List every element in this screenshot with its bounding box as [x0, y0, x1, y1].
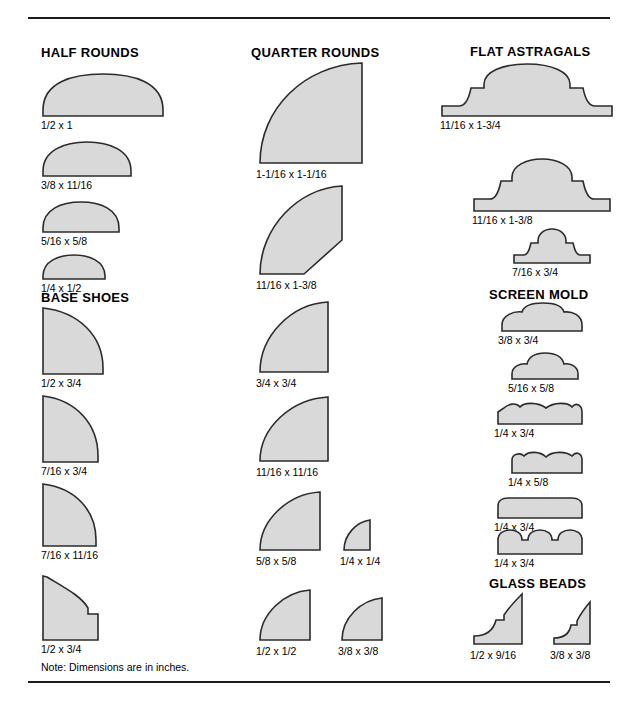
profile-quarter-round-8: 3/8 x 3/8 — [338, 596, 390, 658]
profile-quarter-round-7: 1/2 x 1/2 — [256, 588, 318, 658]
profile-base-shoe-3: 7/16 x 11/16 — [41, 482, 101, 562]
profile-label-screen-mold-4: 1/4 x 5/8 — [508, 476, 588, 489]
profile-screen-mold-4: 1/4 x 5/8 — [508, 449, 588, 489]
profile-label-base-shoe-2: 7/16 x 3/4 — [41, 465, 103, 478]
profile-shape-half-round-1 — [41, 72, 165, 118]
section-title-flat-astragals: FLAT ASTRAGALS — [470, 44, 590, 59]
profile-glass-bead-1: 1/2 x 9/16 — [470, 592, 528, 662]
profile-label-flat-astragal-1: 11/16 x 1-3/4 — [440, 119, 614, 132]
profile-shape-glass-bead-1 — [470, 592, 528, 648]
profile-shape-half-round-2 — [41, 140, 133, 178]
profile-shape-quarter-round-3 — [256, 300, 336, 376]
profile-label-quarter-round-1: 1-1/16 x 1-1/16 — [256, 168, 366, 181]
profile-label-half-round-2: 3/8 x 11/16 — [41, 179, 133, 192]
profile-quarter-round-1: 1-1/16 x 1-1/16 — [256, 61, 366, 181]
profile-shape-quarter-round-7 — [256, 588, 318, 644]
profile-shape-screen-mold-2 — [508, 351, 584, 381]
profile-label-quarter-round-8: 3/8 x 3/8 — [338, 645, 390, 658]
profile-shape-quarter-round-8 — [338, 596, 390, 644]
profile-base-shoe-2: 7/16 x 3/4 — [41, 394, 103, 478]
profile-shape-base-shoe-4 — [41, 574, 103, 642]
profile-shape-screen-mold-6 — [494, 528, 590, 556]
profile-glass-bead-2: 3/8 x 3/8 — [550, 600, 598, 662]
profile-shape-quarter-round-5 — [256, 490, 328, 554]
profile-label-screen-mold-3: 1/4 x 3/4 — [494, 427, 590, 440]
profile-label-screen-mold-1: 3/8 x 3/4 — [498, 334, 588, 347]
profile-half-round-3: 5/16 x 5/8 — [41, 200, 121, 248]
profile-shape-half-round-4 — [41, 253, 107, 281]
profile-label-screen-mold-6: 1/4 x 3/4 — [494, 557, 590, 570]
profile-quarter-round-4: 11/16 x 11/16 — [256, 395, 336, 479]
profile-label-base-shoe-1: 1/2 x 3/4 — [41, 377, 107, 390]
profile-quarter-round-6: 1/4 x 1/4 — [340, 518, 380, 568]
profile-flat-astragal-2: 11/16 x 1-3/8 — [472, 157, 612, 227]
profile-shape-quarter-round-6 — [340, 518, 376, 554]
profile-label-flat-astragal-3: 7/16 x 3/4 — [512, 266, 592, 279]
moulding-profiles-page: HALF ROUNDS 1/2 x 1 3/8 x 11/16 5/16 x 5… — [0, 0, 623, 702]
profile-quarter-round-3: 3/4 x 3/4 — [256, 300, 336, 390]
profile-base-shoe-1: 1/2 x 3/4 — [41, 306, 107, 390]
profile-shape-base-shoe-2 — [41, 394, 103, 464]
profile-shape-screen-mold-3 — [494, 400, 590, 426]
profile-quarter-round-2: 11/16 x 1-3/8 — [256, 184, 356, 292]
profile-base-shoe-4: 1/2 x 3/4 — [41, 574, 103, 656]
profile-screen-mold-3: 1/4 x 3/4 — [494, 400, 590, 440]
profile-label-base-shoe-3: 7/16 x 11/16 — [41, 549, 101, 562]
section-title-base-shoes: BASE SHOES — [41, 290, 129, 305]
profile-shape-flat-astragal-1 — [440, 62, 614, 118]
profile-label-quarter-round-6: 1/4 x 1/4 — [340, 555, 380, 568]
profile-shape-half-round-3 — [41, 200, 121, 234]
profile-label-half-round-1: 1/2 x 1 — [41, 119, 165, 132]
profile-half-round-4: 1/4 x 1/2 — [41, 253, 107, 295]
profile-shape-screen-mold-1 — [498, 301, 588, 333]
profile-shape-screen-mold-4 — [508, 449, 588, 475]
profile-shape-glass-bead-2 — [550, 600, 598, 648]
profile-label-flat-astragal-2: 11/16 x 1-3/8 — [472, 214, 612, 227]
bottom-divider-rule — [28, 681, 610, 683]
profile-shape-screen-mold-5 — [494, 496, 590, 520]
profile-screen-mold-1: 3/8 x 3/4 — [498, 301, 588, 347]
profile-flat-astragal-1: 11/16 x 1-3/4 — [440, 62, 614, 132]
profile-label-base-shoe-4: 1/2 x 3/4 — [41, 643, 103, 656]
top-divider-rule — [28, 17, 610, 19]
profile-label-quarter-round-4: 11/16 x 11/16 — [256, 466, 336, 479]
dimensions-note: Note: Dimensions are in inches. — [41, 661, 189, 673]
profile-label-half-round-3: 5/16 x 5/8 — [41, 235, 121, 248]
profile-label-quarter-round-3: 3/4 x 3/4 — [256, 377, 336, 390]
profile-shape-quarter-round-1 — [256, 61, 366, 167]
profile-shape-flat-astragal-2 — [472, 157, 612, 213]
section-title-half-rounds: HALF ROUNDS — [41, 45, 139, 60]
profile-shape-flat-astragal-3 — [512, 227, 592, 265]
profile-label-quarter-round-5: 5/8 x 5/8 — [256, 555, 328, 568]
profile-shape-quarter-round-2 — [256, 184, 356, 278]
profile-label-quarter-round-2: 11/16 x 1-3/8 — [256, 279, 356, 292]
profile-shape-quarter-round-4 — [256, 395, 336, 465]
section-title-quarter-rounds: QUARTER ROUNDS — [251, 45, 379, 60]
profile-label-glass-bead-2: 3/8 x 3/8 — [550, 649, 598, 662]
section-title-glass-beads: GLASS BEADS — [489, 576, 586, 591]
profile-half-round-1: 1/2 x 1 — [41, 72, 165, 132]
section-title-screen-mold: SCREEN MOLD — [489, 287, 588, 302]
profile-label-glass-bead-1: 1/2 x 9/16 — [470, 649, 528, 662]
profile-quarter-round-5: 5/8 x 5/8 — [256, 490, 328, 568]
profile-label-screen-mold-2: 5/16 x 5/8 — [508, 382, 584, 395]
profile-flat-astragal-3: 7/16 x 3/4 — [512, 227, 592, 279]
profile-screen-mold-2: 5/16 x 5/8 — [508, 351, 584, 395]
profile-shape-base-shoe-1 — [41, 306, 107, 376]
profile-screen-mold-6: 1/4 x 3/4 — [494, 528, 590, 570]
profile-label-quarter-round-7: 1/2 x 1/2 — [256, 645, 318, 658]
profile-shape-base-shoe-3 — [41, 482, 101, 548]
profile-half-round-2: 3/8 x 11/16 — [41, 140, 133, 192]
